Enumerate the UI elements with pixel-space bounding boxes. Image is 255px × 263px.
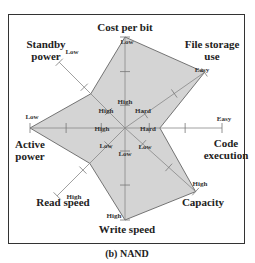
data-polygon: [30, 37, 205, 220]
axis-inner-label-code: Hard: [140, 125, 156, 133]
axis-outer-label-write: High: [107, 212, 122, 220]
axis-label-file: File storage: [185, 38, 240, 50]
axis-outer-label-cost: Low: [120, 38, 134, 46]
axis-outer-label-code: Easy: [217, 115, 232, 123]
chart-caption: (b) NAND: [105, 248, 149, 260]
axis-outer-label-file: Easy: [195, 66, 210, 74]
axis-label-read: Read speed: [36, 196, 89, 208]
radar-chart: Cost per bitLowHighFile storageuseEasyHa…: [0, 0, 255, 263]
axis-label-active: power: [15, 150, 44, 162]
axis-inner-label-active: High: [95, 125, 110, 133]
axis-inner-label-read: Low: [99, 142, 113, 150]
axis-label-file: use: [204, 50, 219, 62]
axis-inner-label-capacity: Low: [138, 143, 152, 151]
axis-outer-label-active: Low: [25, 113, 39, 121]
axis-outer-label-capacity: High: [193, 180, 208, 188]
axis-label-standby: power: [31, 50, 60, 62]
axis-label-write: Write speed: [99, 223, 155, 235]
axis-inner-label-standby: High: [99, 107, 114, 115]
axis-label-active: Active: [15, 138, 45, 150]
axis-outer-label-standby: Low: [65, 48, 79, 56]
axis-outer-label-read: High: [67, 193, 82, 201]
axis-inner-label-cost: High: [118, 98, 133, 106]
axis-label-code: Code: [214, 137, 239, 149]
axis-label-cost: Cost per bit: [97, 21, 153, 33]
axis-label-code: execution: [204, 149, 249, 161]
axis-label-standby: Standby: [26, 38, 66, 50]
axis-inner-label-file: Hard: [135, 107, 151, 115]
axis-label-capacity: Capacity: [182, 196, 225, 208]
axis-inner-label-write: Low: [118, 150, 132, 158]
